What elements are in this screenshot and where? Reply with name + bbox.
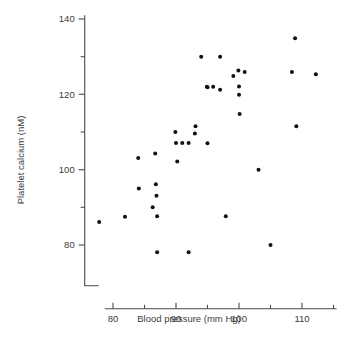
data-point — [180, 141, 184, 145]
axes-group: 80100120140 8090100110 — [59, 13, 337, 323]
data-point — [151, 205, 155, 209]
data-point — [206, 141, 210, 145]
data-point — [123, 215, 127, 219]
x-axis-ticks — [113, 303, 334, 309]
data-point — [187, 250, 191, 254]
data-points-group — [97, 36, 318, 254]
data-point — [137, 187, 141, 191]
data-point — [257, 168, 261, 172]
data-point — [136, 156, 140, 160]
y-tick-label: 120 — [59, 89, 75, 100]
y-tick-label: 80 — [64, 239, 75, 250]
data-point — [211, 85, 215, 89]
data-point — [293, 36, 297, 40]
data-point — [173, 130, 177, 134]
y-axis-tick-labels: 80100120140 — [59, 13, 75, 250]
data-point — [154, 194, 158, 198]
data-point — [238, 112, 242, 116]
data-point — [237, 93, 241, 97]
data-point — [175, 159, 179, 163]
x-tick-label: 80 — [108, 313, 119, 324]
data-point — [290, 70, 294, 74]
data-point — [155, 250, 159, 254]
data-point — [243, 70, 247, 74]
data-point — [193, 132, 197, 136]
data-point — [187, 141, 191, 145]
y-axis-line — [85, 15, 99, 286]
data-point — [194, 124, 198, 128]
data-point — [231, 74, 235, 78]
data-point — [153, 151, 157, 155]
x-axis-title: Blood pressure (mm Hg) — [137, 313, 240, 324]
data-point — [218, 55, 222, 59]
data-point — [199, 55, 203, 59]
data-point — [237, 84, 241, 88]
data-point — [236, 69, 240, 73]
data-point — [154, 182, 158, 186]
y-axis-title: Platelet calcium (nM) — [15, 116, 26, 205]
y-axis-ticks — [79, 19, 85, 245]
y-tick-label: 100 — [59, 164, 75, 175]
data-point — [174, 141, 178, 145]
data-point — [218, 88, 222, 92]
scatter-plot-figure: 80100120140 8090100110 Blood pressure (m… — [0, 0, 350, 339]
x-tick-label: 110 — [294, 313, 309, 324]
data-point — [206, 85, 210, 89]
data-point — [294, 124, 298, 128]
data-point — [269, 243, 273, 247]
data-point — [155, 214, 159, 218]
data-point — [224, 214, 228, 218]
data-point — [314, 72, 318, 76]
y-tick-label: 140 — [59, 13, 75, 24]
data-point — [97, 220, 101, 224]
